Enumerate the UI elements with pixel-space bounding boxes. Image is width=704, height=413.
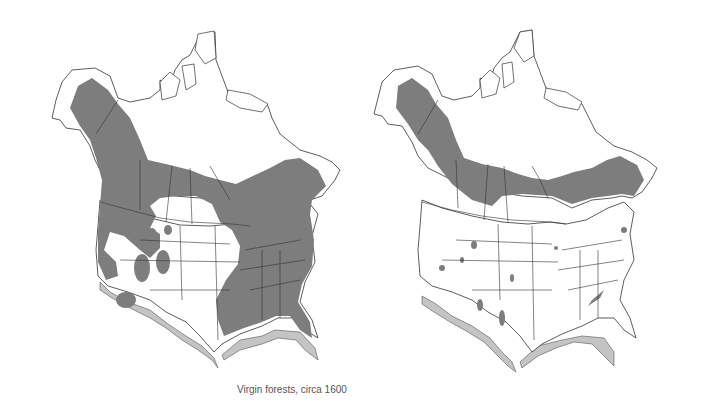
north-america-map-1993 [352, 0, 704, 413]
map-circa-1600: Virgin forests, circa 1600 [0, 0, 352, 413]
north-america-map-1600 [0, 0, 352, 413]
map-1993: Virgin forests, 1993 [352, 0, 704, 413]
caption-circa-1600: Virgin forests, circa 1600 [237, 384, 347, 395]
united-states-landmass [418, 200, 636, 352]
